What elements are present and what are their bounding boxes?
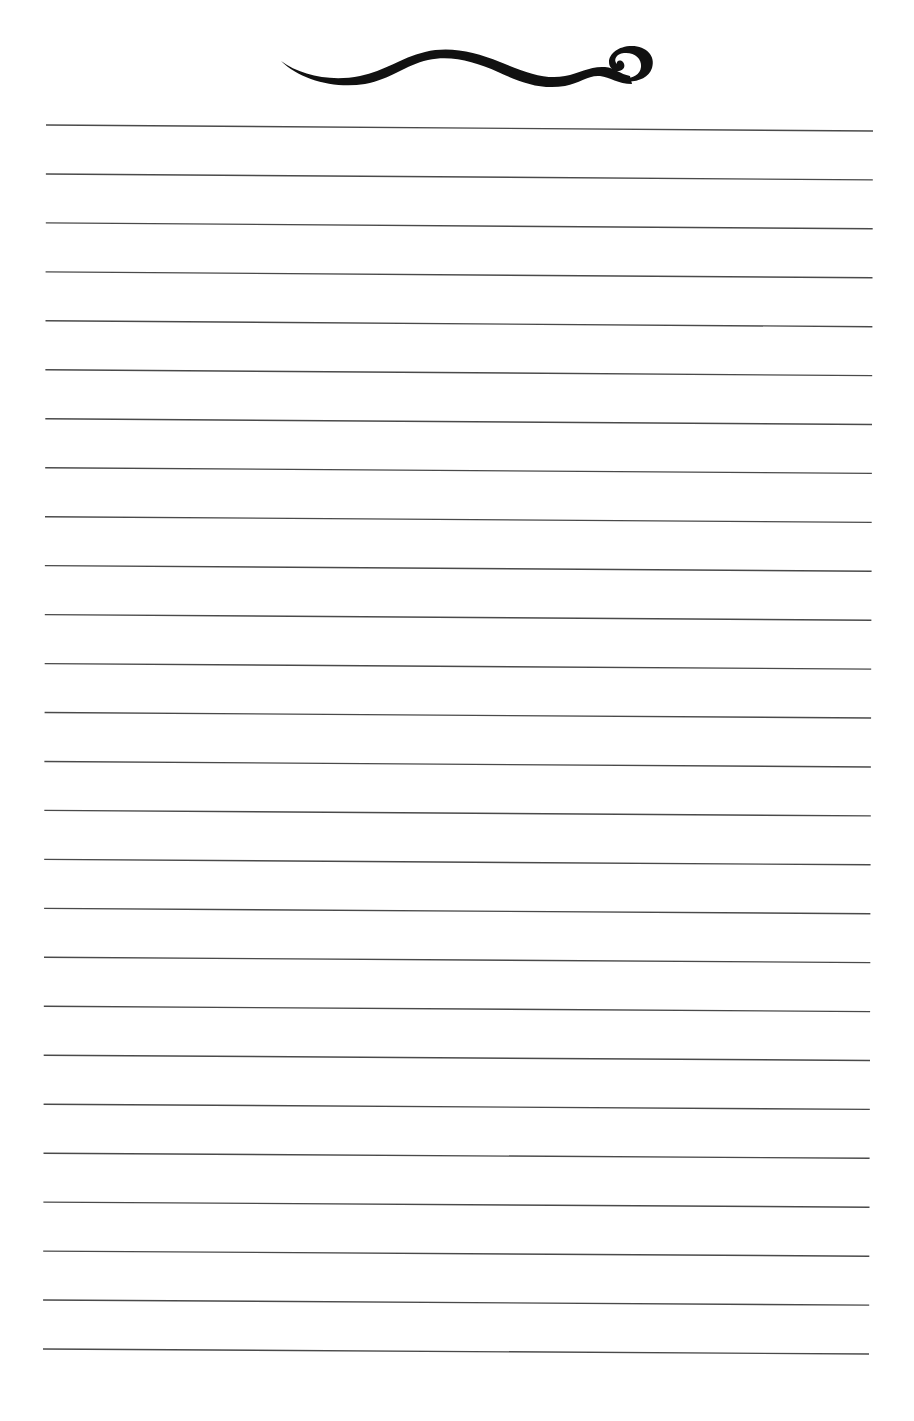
ruled-line [44,957,870,962]
ruled-lines [0,0,914,1421]
ruled-line [43,1202,869,1207]
ruled-line [44,1104,870,1109]
ruled-line [45,370,872,376]
ruled-line [44,908,870,913]
lined-paper-page [0,0,914,1421]
ruled-line [45,468,872,474]
ruled-line [44,1153,870,1158]
ruled-line [44,859,870,864]
ruled-line [43,1251,869,1256]
ruled-line [44,1055,870,1060]
ruled-line [45,615,872,621]
ruled-line [46,223,873,229]
ruled-line [43,1349,869,1354]
ruled-line [44,762,871,768]
ruled-line [43,1300,869,1305]
ruled-line [45,664,872,670]
ruled-line [44,1006,870,1011]
ruled-line [44,810,871,816]
ruled-line [45,713,872,719]
ruled-line [45,517,872,523]
ruled-line [46,321,873,327]
ruled-line [45,419,872,425]
ruled-line [46,272,873,278]
ruled-line [45,566,872,572]
ruled-line [46,174,873,180]
ruled-line [46,125,873,131]
